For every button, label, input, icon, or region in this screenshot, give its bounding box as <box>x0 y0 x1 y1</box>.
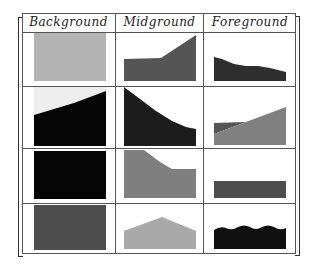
row4-foreground-image <box>214 224 286 249</box>
row3-background-image <box>34 151 106 199</box>
row2-midground-image <box>124 87 196 146</box>
row3-foreground-image <box>214 181 286 198</box>
header-foreground: Foreground <box>204 13 296 32</box>
row1-midground-image <box>124 35 196 81</box>
row2-background-image <box>34 87 106 146</box>
row1-background-image <box>34 33 106 81</box>
row2-foreground-image <box>214 107 286 145</box>
header-midground: Midground <box>116 13 203 32</box>
column-divider <box>115 13 116 254</box>
header-background: Background <box>22 13 115 32</box>
row-divider <box>22 203 296 204</box>
row1-foreground-image <box>214 57 286 81</box>
column-divider <box>203 13 204 254</box>
row3-midground-image <box>124 150 196 198</box>
row4-midground-image <box>124 217 196 249</box>
row-divider <box>22 148 296 149</box>
row4-background-image <box>34 205 106 250</box>
